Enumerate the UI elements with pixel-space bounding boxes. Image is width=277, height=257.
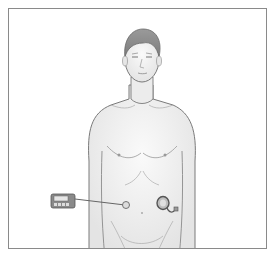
infusion-pump [51, 194, 75, 208]
head [123, 29, 162, 82]
pump-display [54, 196, 68, 201]
infusion-site [123, 202, 130, 209]
body [89, 85, 196, 249]
torso-illustration [9, 9, 267, 249]
illustration-frame [8, 8, 267, 249]
